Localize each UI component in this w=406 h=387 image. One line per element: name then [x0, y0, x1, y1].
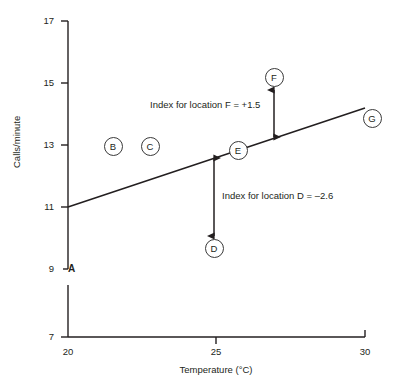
annotation-index-d: Index for location D = –2.6 — [222, 191, 333, 201]
chart-figure: 17 15 13 11 9 7 A 20 25 30 Temperature (… — [0, 0, 406, 387]
y-tick-label-13: 13 — [36, 140, 54, 150]
data-point-f: F — [265, 68, 284, 87]
y-tick-label-11: 11 — [36, 202, 54, 212]
data-point-g: G — [363, 109, 382, 128]
plot-area — [0, 0, 406, 387]
y-tick-label-9: 9 — [36, 264, 54, 274]
y-tick-label-7: 7 — [36, 332, 54, 342]
data-point-d: D — [205, 239, 224, 258]
axis-break-label-a: A — [68, 264, 75, 274]
data-point-e: E — [229, 141, 248, 160]
x-tick-label-30: 30 — [360, 347, 371, 357]
x-tick-label-20: 20 — [63, 347, 74, 357]
x-tick-label-25: 25 — [211, 347, 222, 357]
data-point-c: C — [141, 137, 160, 156]
y-axis-title: Calls/minute — [12, 116, 22, 168]
annotation-index-f: Index for location F = +1.5 — [150, 100, 260, 110]
y-tick-label-17: 17 — [36, 16, 54, 26]
data-point-b: B — [104, 137, 123, 156]
y-tick-label-15: 15 — [36, 78, 54, 88]
x-axis-title: Temperature (°C) — [180, 365, 253, 375]
